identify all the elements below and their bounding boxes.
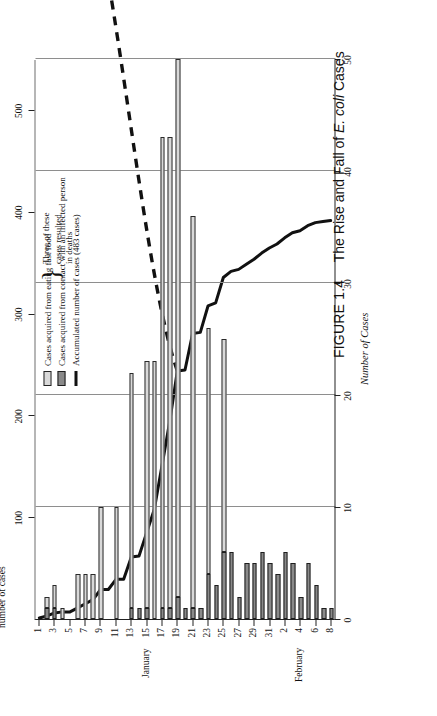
x-axis-tick-label: 2 (279, 628, 289, 650)
y-axis-right-tick-label: 300 (14, 297, 24, 333)
bar-contact (229, 552, 233, 619)
y-axis-right-tick-label: 400 (14, 195, 24, 231)
bar-contact (52, 608, 56, 619)
x-axis-tick-mark (207, 620, 208, 626)
deaths-note-line3: in deaths (63, 144, 75, 264)
x-axis-tick-mark (99, 620, 100, 626)
x-axis-tick-label: 9 (94, 628, 104, 650)
bar-contact (260, 552, 264, 619)
y-axis-right-tick-label: 500 (14, 93, 24, 129)
y-axis-right-tick-label: 100 (14, 500, 24, 536)
bar-fast-food (75, 574, 79, 619)
y-axis-left-tick-mark (334, 507, 340, 508)
y-axis-left-tick-label: 0 (343, 606, 353, 634)
bar-contact (175, 597, 179, 619)
y-axis-left-tick-label: 40 (343, 158, 353, 186)
bar-contact (252, 563, 256, 619)
y-axis-left-tick-mark (334, 283, 340, 284)
x-axis-month-february: February (293, 648, 303, 682)
y-axis-left-tick-mark (334, 171, 340, 172)
bar-contact (137, 608, 141, 619)
x-axis-tick-mark (161, 620, 162, 626)
bar-fast-food (83, 574, 87, 619)
bar-fast-food (114, 507, 118, 619)
x-axis-tick-mark (176, 620, 177, 626)
bar-contact (160, 608, 164, 619)
x-axis-tick-mark (115, 620, 116, 626)
x-axis-line (334, 60, 335, 620)
deaths-brace-note: } Three of these cases resulted in death… (40, 144, 75, 264)
bar-fast-food (160, 137, 164, 607)
x-axis-tick-mark (130, 620, 131, 626)
legend-swatch-accumulated-line (74, 371, 77, 386)
y-axis-left-tick-mark (334, 395, 340, 396)
x-axis-tick-mark (146, 620, 147, 626)
bar-contact (306, 563, 310, 619)
bar-contact (183, 608, 187, 619)
x-axis-tick-label: 31 (264, 628, 274, 650)
x-axis-tick-mark (253, 620, 254, 626)
bar-contact (298, 597, 302, 619)
y-axis-left-tick-label: 30 (343, 270, 353, 298)
x-axis-tick-mark (84, 620, 85, 626)
x-axis-tick-label: 25 (217, 628, 227, 650)
y-axis-left-tick-label: 10 (343, 494, 353, 522)
x-axis-tick-mark (38, 620, 39, 626)
bar-contact (129, 608, 133, 619)
bar-fast-food (129, 373, 133, 608)
y-axis-right-title: Accumulated number of cases (0, 566, 8, 628)
bar-fast-food (52, 585, 56, 607)
x-axis-tick-label: 8 (325, 628, 335, 650)
y-axis-left-tick-label: 50 (343, 46, 353, 74)
gridline (35, 394, 335, 395)
bar-fast-food (152, 361, 156, 619)
bar-contact (237, 597, 241, 619)
x-axis-tick-label: 15 (141, 628, 151, 650)
bar-contact (221, 552, 225, 619)
x-axis-tick-label: 23 (202, 628, 212, 650)
x-axis-tick-label: 21 (187, 628, 197, 650)
x-axis-tick-label: 1 (33, 628, 43, 650)
y-axis-right-tick-mark (28, 415, 34, 416)
bar-contact (321, 608, 325, 619)
bar-fast-food (221, 339, 225, 552)
legend-swatch-contact-bar (57, 371, 65, 386)
bar-contact (283, 552, 287, 619)
gridline (35, 506, 335, 507)
bar-fast-food (144, 361, 148, 607)
y-axis-right-tick-mark (28, 212, 34, 213)
x-axis-tick-mark (284, 620, 285, 626)
y-axis-left-tick-mark (334, 619, 340, 620)
bar-contact (267, 563, 271, 619)
x-axis-tick-label: 4 (294, 628, 304, 650)
x-axis-tick-mark (222, 620, 223, 626)
bar-contact (44, 608, 48, 619)
bar-contact (198, 608, 202, 619)
x-axis-tick-label: 5 (64, 628, 74, 650)
y-axis-right-tick-mark (28, 517, 34, 518)
bar-fast-food (175, 59, 179, 597)
bar-fast-food (60, 608, 64, 619)
y-axis-right-tick-mark (28, 110, 34, 111)
bar-contact (290, 563, 294, 619)
x-axis-tick-label: 7 (79, 628, 89, 650)
x-axis-tick-label: 13 (125, 628, 135, 650)
x-axis-tick-label: 19 (171, 628, 181, 650)
legend-swatch-fast-food-bar (43, 371, 51, 386)
x-axis-month-january: January (140, 648, 150, 678)
bar-contact (167, 608, 171, 619)
bar-fast-food (44, 597, 48, 608)
x-axis-tick-label: 11 (110, 628, 120, 650)
bar-contact (214, 585, 218, 619)
y-axis-left-tick-mark (334, 59, 340, 60)
bar-fast-food (206, 328, 210, 574)
bar-contact (275, 574, 279, 619)
bar-fast-food (98, 507, 102, 619)
x-axis-tick-label: 27 (233, 628, 243, 650)
bar-contact (244, 563, 248, 619)
x-axis-tick-label: 17 (156, 628, 166, 650)
bar-contact (144, 608, 148, 619)
x-axis-tick-label: 3 (48, 628, 58, 650)
deaths-note-line1: Three of these (40, 144, 52, 264)
x-axis-tick-mark (330, 620, 331, 626)
